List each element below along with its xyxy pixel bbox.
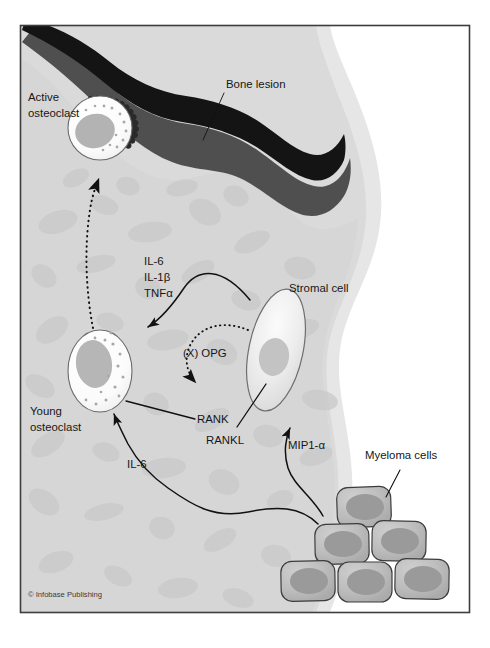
cytokine-label-il6: IL-6	[144, 255, 164, 267]
cytokine-label-tnfa: TNFα	[144, 287, 173, 299]
figure-root: Bone lesion Active osteoclast IL-6 IL-1β…	[0, 0, 490, 648]
young-osteoclast	[68, 330, 132, 412]
myeloma-cells-label: Myeloma cells	[365, 449, 437, 461]
bone-lesion-label: Bone lesion	[226, 78, 286, 90]
il6-bottom-label: IL-6	[127, 458, 147, 470]
bone-disease-diagram: Bone lesion Active osteoclast IL-6 IL-1β…	[0, 0, 490, 648]
myeloma-nucleus	[324, 531, 362, 557]
myeloma-nucleus	[404, 566, 442, 592]
young-osteoclast-label-line1: Young	[30, 405, 62, 417]
active-osteoclast-label-line2: osteoclast	[28, 107, 80, 119]
cytokine-label-il1b: IL-1β	[144, 271, 171, 283]
young-osteoclast-label-line2: osteoclast	[30, 421, 82, 433]
publisher-credit: © Infobase Publishing	[28, 590, 102, 599]
opg-label: (X) OPG	[183, 347, 227, 359]
rankl-label: RANKL	[206, 434, 244, 446]
myeloma-nucleus	[381, 528, 419, 554]
myeloma-nucleus	[290, 568, 328, 594]
myeloma-nucleus	[346, 494, 384, 520]
active-osteoclast-label-line1: Active	[28, 91, 59, 103]
rank-label: RANK	[197, 413, 229, 425]
stromal-cell-label: Stromal cell	[289, 282, 349, 294]
myeloma-nucleus	[347, 569, 385, 595]
mip1a-label: MIP1-α	[288, 439, 325, 451]
